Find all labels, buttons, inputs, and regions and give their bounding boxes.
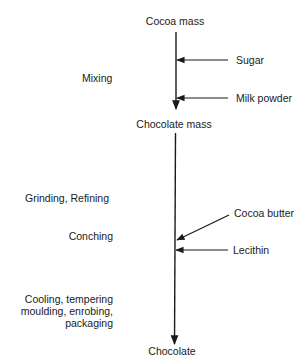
input-milk-powder: Milk powder <box>236 92 292 104</box>
step-cooling-line-3: packaging <box>0 317 113 329</box>
step-cooling-line-2: moulding, enrobing, <box>0 305 113 317</box>
input-lecithin: Lecithin <box>233 244 269 256</box>
node-chocolate: Chocolate <box>148 345 195 357</box>
input-sugar: Sugar <box>236 54 264 66</box>
input-cocoa-butter: Cocoa butter <box>234 207 294 219</box>
node-chocolate-mass: Chocolate mass <box>136 118 211 130</box>
step-conching: Conching <box>40 230 113 242</box>
node-cocoa-mass: Cocoa mass <box>146 15 204 27</box>
trunk-arrow-2 <box>175 133 176 344</box>
cocoa-butter-arrow <box>177 215 229 240</box>
step-cooling-line-1: Cooling, tempering <box>0 293 113 305</box>
step-grinding-refining: Grinding, Refining <box>25 192 109 204</box>
step-cooling-packaging: Cooling, tempering moulding, enrobing, p… <box>0 293 113 329</box>
step-mixing: Mixing <box>82 72 112 84</box>
